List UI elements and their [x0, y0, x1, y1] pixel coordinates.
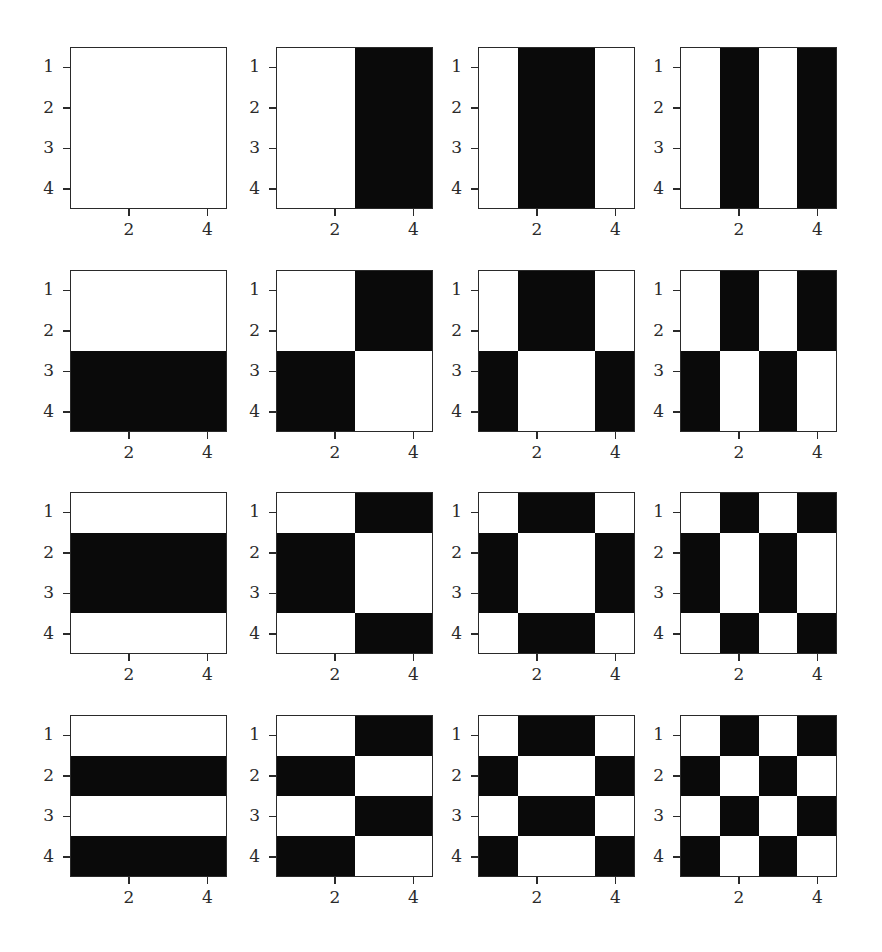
matrix-cell: [187, 391, 226, 431]
matrix-cell: [595, 48, 634, 88]
y-tick: [673, 816, 680, 818]
y-tick-label: 3: [246, 139, 260, 156]
x-tick: [128, 209, 130, 216]
matrix-cell: [797, 796, 836, 836]
matrix-cell: [393, 311, 432, 351]
y-tick-label: 4: [40, 625, 54, 642]
x-tick: [128, 877, 130, 884]
matrix-cell: [316, 533, 355, 573]
matrix-cell: [595, 796, 634, 836]
matrix-cell: [149, 493, 188, 533]
matrix-cell: [479, 836, 518, 876]
x-tick-label: 4: [807, 666, 827, 683]
matrix-cell: [720, 573, 759, 613]
matrix-cell: [720, 88, 759, 128]
x-tick: [738, 877, 740, 884]
x-tick: [413, 654, 415, 661]
y-tick-label: 1: [246, 58, 260, 75]
y-tick-label: 3: [246, 362, 260, 379]
y-tick: [471, 552, 478, 554]
y-tick: [269, 148, 276, 150]
matrix-cell: [720, 796, 759, 836]
y-tick: [673, 290, 680, 292]
y-tick-label: 3: [650, 807, 664, 824]
y-tick-label: 1: [40, 726, 54, 743]
matrix-cell: [595, 168, 634, 208]
matrix-cell: [797, 311, 836, 351]
matrix-cell: [316, 796, 355, 836]
matrix-cell: [71, 271, 110, 311]
matrix-cell: [797, 613, 836, 653]
x-tick: [615, 432, 617, 439]
y-tick-label: 4: [448, 403, 462, 420]
y-tick-label: 4: [246, 403, 260, 420]
matrix-cell: [681, 573, 720, 613]
matrix-cell: [518, 168, 557, 208]
matrix-cell: [187, 533, 226, 573]
x-tick-label: 2: [119, 666, 139, 683]
matrix-cell: [277, 493, 316, 533]
matrix-cell: [277, 351, 316, 391]
y-tick: [673, 148, 680, 150]
y-tick: [471, 188, 478, 190]
y-tick-label: 3: [40, 139, 54, 156]
matrix-cell: [110, 271, 149, 311]
x-tick-label: 4: [605, 444, 625, 461]
matrix-cell: [187, 493, 226, 533]
matrix-cell: [355, 88, 394, 128]
matrix-cell: [681, 88, 720, 128]
matrix-cell: [681, 391, 720, 431]
matrix-cell: [187, 573, 226, 613]
matrix-cell: [393, 271, 432, 311]
y-tick: [63, 633, 70, 635]
matrix-cell: [479, 716, 518, 756]
matrix-cell: [759, 533, 798, 573]
x-tick-label: 2: [729, 666, 749, 683]
y-tick-label: 2: [448, 767, 462, 784]
matrix-cell: [595, 836, 634, 876]
y-tick: [471, 330, 478, 332]
y-tick: [471, 148, 478, 150]
matrix-cell: [393, 613, 432, 653]
matrix-cell: [149, 311, 188, 351]
matrix-cell: [595, 493, 634, 533]
matrix-cell: [759, 168, 798, 208]
x-tick: [207, 877, 209, 884]
matrix-cell: [557, 756, 596, 796]
matrix-cell: [71, 533, 110, 573]
matrix-cell: [316, 716, 355, 756]
matrix-cell: [187, 168, 226, 208]
matrix-cell: [71, 391, 110, 431]
x-tick-label: 2: [729, 444, 749, 461]
matrix-cell: [720, 271, 759, 311]
matrix-cell: [518, 836, 557, 876]
y-tick: [673, 552, 680, 554]
matrix-cell: [797, 128, 836, 168]
matrix-cell: [110, 311, 149, 351]
matrix-cell: [557, 88, 596, 128]
matrix-cell: [557, 391, 596, 431]
pattern-matrix: [478, 270, 635, 432]
matrix-cell: [557, 168, 596, 208]
pattern-matrix: [70, 492, 227, 654]
x-tick-label: 2: [119, 444, 139, 461]
matrix-cell: [393, 533, 432, 573]
y-tick: [673, 593, 680, 595]
matrix-cell: [557, 351, 596, 391]
x-tick-label: 2: [325, 221, 345, 238]
matrix-cell: [71, 88, 110, 128]
basis-pattern-grid: 1234241234241234241234241234241234241234…: [0, 0, 882, 952]
matrix-cell: [595, 128, 634, 168]
matrix-cell: [557, 796, 596, 836]
x-tick-label: 4: [197, 444, 217, 461]
matrix-cell: [595, 573, 634, 613]
y-tick: [471, 735, 478, 737]
x-tick-label: 4: [197, 666, 217, 683]
matrix-cell: [595, 311, 634, 351]
matrix-cell: [797, 88, 836, 128]
y-tick: [471, 816, 478, 818]
matrix-cell: [149, 351, 188, 391]
matrix-cell: [518, 271, 557, 311]
matrix-cell: [479, 351, 518, 391]
x-tick: [207, 654, 209, 661]
